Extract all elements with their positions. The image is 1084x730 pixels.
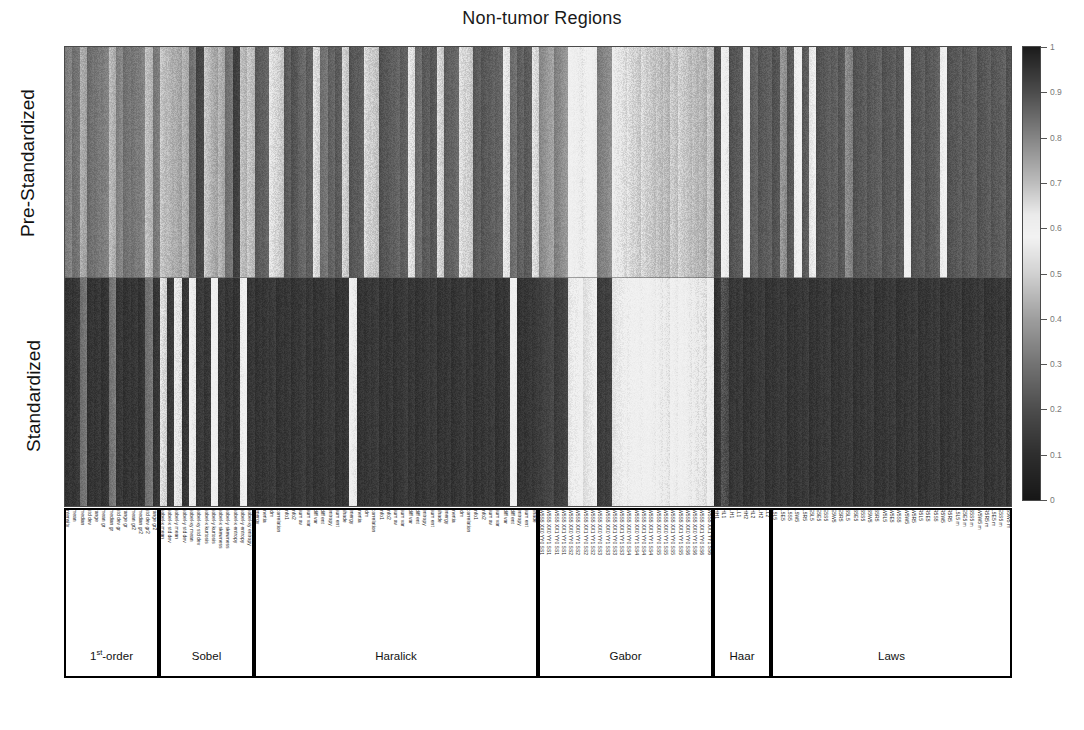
feature-group-label: Haar — [715, 650, 769, 662]
feature-group-boxes: 1st-orderSobelHaralickGaborHaarLaws — [64, 508, 1012, 678]
heatmap — [64, 46, 1012, 507]
page-title: Non-tumor Regions — [0, 8, 1084, 29]
colorbar-tick-label: 1 — [1050, 42, 1055, 52]
feature-group-box: Haar — [713, 508, 771, 678]
colorbar-tick-mark — [1041, 138, 1047, 139]
feature-group-box: Haralick — [254, 508, 538, 678]
colorbar-tick-mark — [1041, 319, 1047, 320]
colorbar-tick-mark — [1041, 92, 1047, 93]
colorbar-tick-label: 0.7 — [1050, 178, 1062, 188]
colorbar-tick-label: 0 — [1050, 495, 1055, 505]
colorbar-tick-mark — [1041, 409, 1047, 410]
feature-group-label: Laws — [773, 650, 1010, 662]
colorbar-tick-mark — [1041, 228, 1047, 229]
colorbar-tick-mark — [1041, 500, 1047, 501]
colorbar-tick-label: 0.1 — [1050, 450, 1062, 460]
colorbar-tick-mark — [1041, 274, 1047, 275]
figure-root: Non-tumor Regions Pre-Standardized Stand… — [0, 0, 1084, 730]
colorbar-tick-mark — [1041, 364, 1047, 365]
feature-group-label: Sobel — [161, 650, 252, 662]
colorbar — [1022, 46, 1041, 501]
feature-group-label: Haralick — [256, 650, 536, 662]
feature-group-box: Laws — [771, 508, 1012, 678]
colorbar-tick-label: 0.8 — [1050, 133, 1062, 143]
colorbar-tick-label: 0.5 — [1050, 269, 1062, 279]
heatmap-canvas — [65, 47, 1012, 507]
feature-group-box: Gabor — [538, 508, 713, 678]
feature-group-label: 1st-order — [66, 648, 157, 662]
row-label-standardized: Standardized — [23, 296, 45, 496]
colorbar-tick-mark — [1041, 47, 1047, 48]
colorbar-tick-label: 0.9 — [1050, 87, 1062, 97]
colorbar-tick-label: 0.6 — [1050, 223, 1062, 233]
colorbar-tick-label: 0.3 — [1050, 359, 1062, 369]
feature-group-box: 1st-order — [64, 508, 159, 678]
colorbar-tick-label: 0.2 — [1050, 404, 1062, 414]
row-label-pre-standardized: Pre-Standardized — [17, 63, 39, 263]
colorbar-tick-mark — [1041, 455, 1047, 456]
colorbar-gradient — [1023, 47, 1040, 500]
feature-group-label: Gabor — [540, 650, 711, 662]
colorbar-tick-label: 0.4 — [1050, 314, 1062, 324]
feature-group-box: Sobel — [159, 508, 254, 678]
colorbar-tick-mark — [1041, 183, 1047, 184]
